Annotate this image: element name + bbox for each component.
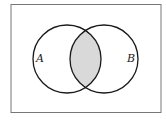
venn-diagram: A B bbox=[0, 0, 166, 123]
set-a-label: A bbox=[35, 52, 44, 65]
set-b-label: B bbox=[126, 52, 135, 65]
